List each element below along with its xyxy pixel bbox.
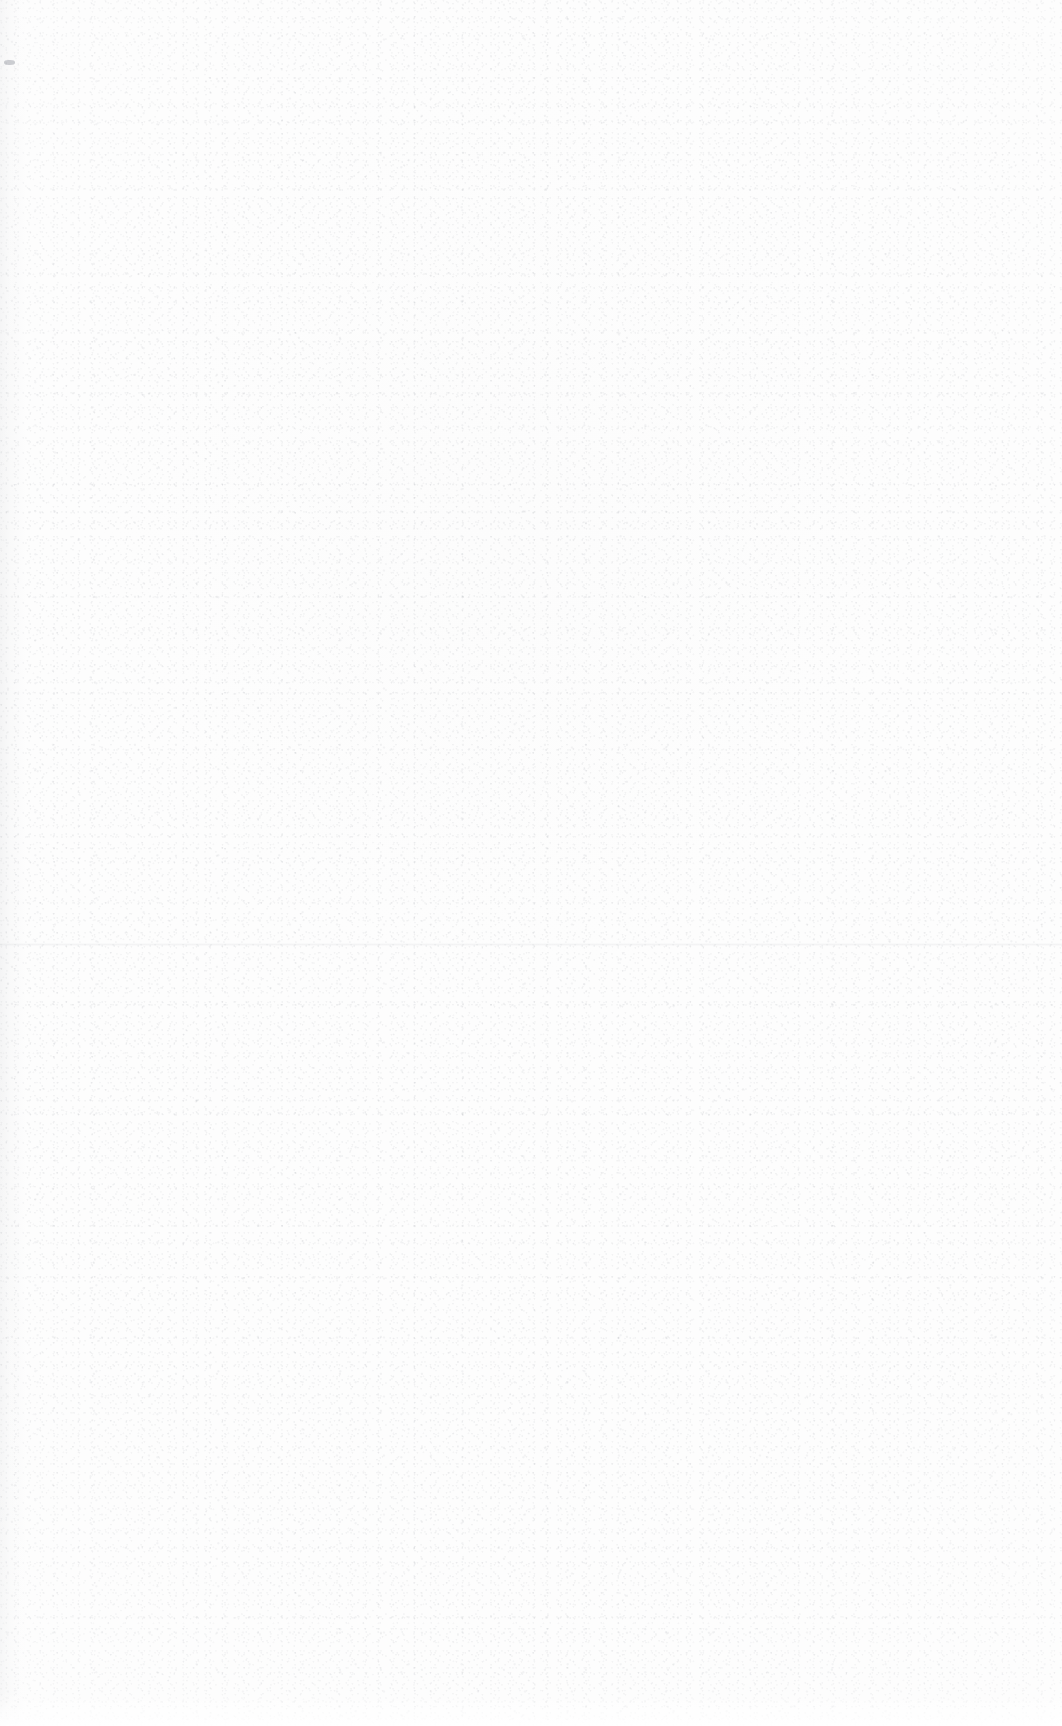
scanned-page (0, 0, 1062, 1726)
scan-vignette (0, 0, 1062, 1726)
